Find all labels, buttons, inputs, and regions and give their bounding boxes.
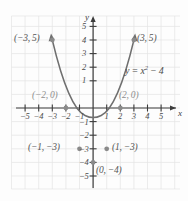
point-label-1-neg3: (1, −3): [112, 143, 138, 153]
equation-lhs: y = x: [125, 65, 145, 76]
point-0-neg4: [91, 160, 96, 165]
coordinate-plane: [0, 0, 188, 201]
x-tick-label-4: 4: [145, 112, 149, 121]
point-label-neg2-0: (−2, 0): [32, 91, 58, 101]
y-tick-label-neg5: −5: [79, 172, 89, 181]
y-tick-label-neg3: −3: [79, 145, 89, 154]
x-tick-label-5: 5: [159, 112, 163, 121]
x-tick-label-3: 3: [132, 112, 136, 121]
graph-figure: x y −5 −4 −3 −2 −1 1 2 3 4 5 5 4 3 2 1 −…: [0, 0, 188, 201]
x-axis: [16, 105, 176, 110]
equation-label: y = x2 − 4: [125, 66, 164, 76]
y-tick-label-3: 3: [82, 49, 86, 58]
y-axis-arrow: [91, 16, 96, 22]
y-tick-label-neg4: −4: [79, 158, 89, 167]
point-3-5: [132, 38, 137, 43]
x-tick-label-neg3: −3: [47, 112, 57, 121]
point-1-neg3: [104, 146, 109, 151]
y-tick-label-1: 1: [82, 76, 86, 85]
x-axis-label: x: [178, 109, 182, 118]
x-tick-label-neg5: −5: [20, 112, 30, 121]
equation-exponent: 2: [145, 64, 148, 71]
y-tick-label-neg2: −2: [79, 131, 89, 140]
x-axis-arrow: [170, 105, 176, 110]
point-label-3-5: (3, 5): [137, 34, 156, 44]
x-tick-label-1: 1: [105, 112, 109, 121]
point-2-0: [118, 106, 123, 111]
y-tick-label-neg1: −1: [79, 118, 89, 127]
point-label-2-0: (2, 0): [119, 91, 138, 101]
point-label-neg3-5: (−3, 5): [14, 34, 40, 44]
y-tick-label-4: 4: [82, 36, 86, 45]
point-label-neg1-neg3: (−1, −3): [28, 143, 60, 153]
y-tick-label-5: 5: [82, 22, 86, 31]
point-label-0-neg4: (0, −4): [96, 166, 122, 176]
y-tick-label-2: 2: [82, 63, 86, 72]
x-tick-label-2: 2: [118, 112, 122, 121]
point-neg3-5: [50, 38, 55, 43]
x-tick-label-neg2: −2: [61, 112, 71, 121]
point-neg2-0: [64, 106, 69, 111]
equation-rhs: − 4: [150, 65, 164, 76]
x-tick-label-neg4: −4: [34, 112, 44, 121]
